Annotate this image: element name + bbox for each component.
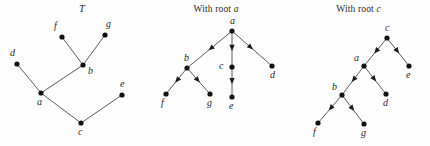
panel-tree-c: With root c caebdfg [287, 0, 430, 146]
panel-tree-a: With root a abcdfge [145, 0, 287, 146]
tree-node-a [361, 63, 366, 68]
tree-node-label-e: e [120, 79, 124, 89]
tree-edge [17, 64, 41, 93]
tree-node-label-g: g [361, 128, 366, 138]
edge-arrowhead [229, 45, 234, 51]
tree-node-label-c: c [385, 23, 389, 33]
tree-edge [41, 65, 83, 93]
tree-node-label-g: g [207, 98, 212, 108]
edge-arrowhead [393, 47, 399, 53]
tree-node-label-b: b [332, 82, 337, 92]
tree-node-label-f: f [161, 98, 164, 108]
tree-node-d [14, 61, 19, 66]
edge-arrowhead [348, 105, 354, 112]
tree-node-c [384, 35, 389, 40]
tree-edge [81, 95, 122, 123]
tree-node-label-a: a [230, 16, 235, 26]
tree-node-g [207, 91, 212, 96]
panel-tree-t: T fgdbaec [0, 0, 145, 146]
tree-figure: T fgdbaec With root a abcdfge With root … [0, 0, 430, 146]
tree-node-f [59, 34, 64, 39]
tree-node-label-f: f [54, 21, 57, 31]
tree-node-b [184, 65, 189, 70]
tree-node-b [80, 62, 85, 67]
tree-edge [83, 35, 105, 65]
tree-node-e [229, 94, 234, 99]
tree-node-e [119, 92, 124, 97]
tree-node-e [406, 63, 411, 68]
tree-node-d [383, 91, 388, 96]
tree-node-a [229, 28, 234, 33]
tree-edge [62, 37, 83, 65]
tree-node-label-c: c [219, 61, 223, 71]
tree-node-label-e: e [229, 101, 233, 111]
edge-arrowhead [229, 78, 234, 84]
tree-node-label-f: f [313, 127, 316, 137]
tree-node-f [315, 120, 320, 125]
edge-arrowhead [370, 75, 376, 81]
tree-node-c [78, 120, 83, 125]
tree-node-g [361, 121, 366, 126]
tree-node-label-g: g [106, 19, 111, 29]
tree-node-c [229, 64, 234, 69]
tree-node-label-c: c [78, 127, 82, 137]
tree-node-d [269, 63, 274, 68]
tree-node-g [102, 32, 107, 37]
tree-node-f [163, 91, 168, 96]
edge-arrowhead [175, 76, 181, 82]
tree-node-a [38, 90, 43, 95]
tree-node-label-a: a [354, 53, 359, 63]
tree-node-label-d: d [270, 70, 275, 80]
tree-node-label-b: b [184, 53, 189, 63]
tree-node-label-e: e [406, 70, 410, 80]
tree-node-label-b: b [88, 66, 93, 76]
tree-graph-a [145, 0, 287, 146]
tree-graph-t [0, 0, 145, 146]
tree-node-label-a: a [37, 97, 42, 107]
tree-edge [41, 93, 81, 123]
edge-arrowhead [352, 76, 358, 83]
tree-node-b [339, 92, 344, 97]
tree-node-label-d: d [10, 48, 15, 58]
tree-node-label-d: d [383, 98, 388, 108]
